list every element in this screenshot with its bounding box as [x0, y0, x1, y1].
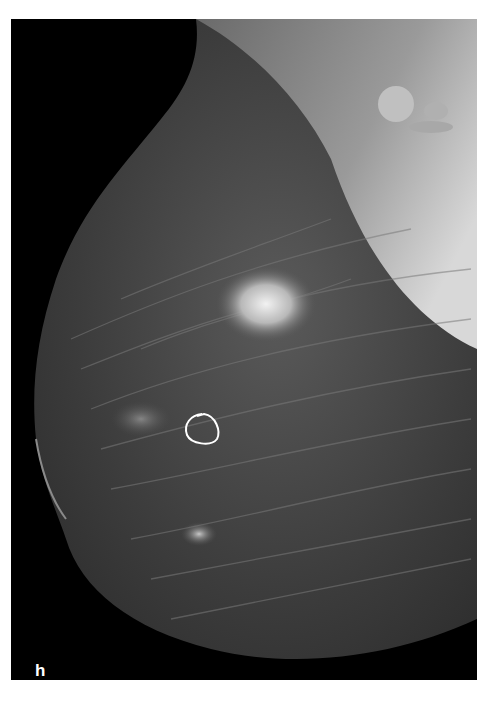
mammogram-image: h R MLO: [11, 19, 477, 680]
mammogram-graphic: [11, 19, 477, 680]
page-margin: [0, 680, 489, 716]
panel-label: h: [35, 661, 45, 680]
